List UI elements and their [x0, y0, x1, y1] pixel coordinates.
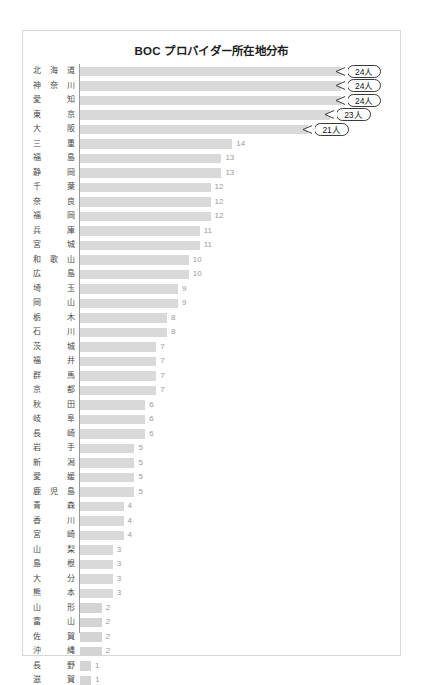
category-label: 福島	[33, 151, 75, 166]
bar-value-label: 13	[225, 166, 234, 181]
bar	[80, 284, 178, 294]
bar	[80, 154, 221, 164]
bar-value-label: 2	[106, 630, 110, 645]
bar-value-label: 4	[128, 514, 132, 529]
bar-value-label: 9	[182, 296, 186, 311]
bar	[80, 96, 341, 106]
bar-fill	[80, 400, 145, 410]
bar-row: 岡山9	[23, 296, 402, 311]
category-label: 大阪	[33, 122, 75, 137]
bar-value-label: 2	[106, 615, 110, 630]
bar-row: 長崎6	[23, 427, 402, 442]
bar-row: 滋賀1	[23, 673, 402, 685]
bar	[80, 632, 102, 642]
bar	[80, 400, 145, 410]
bar-fill	[80, 270, 189, 280]
bar-fill	[80, 110, 330, 120]
bar-value-label: 2	[106, 601, 110, 616]
bar-row: 静岡13	[23, 166, 402, 181]
category-label: 青森	[33, 499, 75, 514]
bar-fill	[80, 531, 124, 541]
callout-label: 21人	[314, 123, 348, 136]
bar	[80, 473, 134, 483]
bar	[80, 168, 221, 178]
value-callout: 24人	[335, 65, 381, 78]
bar	[80, 603, 102, 613]
callout-label: 24人	[347, 65, 381, 78]
category-label: 熊本	[33, 586, 75, 601]
bar-value-label: 5	[138, 441, 142, 456]
category-label: 群馬	[33, 369, 75, 384]
bar-fill	[80, 139, 232, 149]
bar-row: 石川8	[23, 325, 402, 340]
bar-fill	[80, 226, 200, 236]
bar	[80, 487, 134, 497]
callout-label: 24人	[347, 94, 381, 107]
category-label: 秋田	[33, 398, 75, 413]
bar-row: 島根3	[23, 557, 402, 572]
bar	[80, 197, 211, 207]
bar-row: 福島13	[23, 151, 402, 166]
bar-value-label: 2	[106, 644, 110, 659]
category-label: 富山	[33, 615, 75, 630]
bar-fill	[80, 96, 341, 106]
screenshot-root: BOC プロバイダー所在地分布 北海道神奈川愛知東京大阪三重14福島13静岡13…	[0, 0, 425, 685]
bar-fill	[80, 487, 134, 497]
bar-row: 山梨3	[23, 543, 402, 558]
bar	[80, 531, 124, 541]
category-label: 静岡	[33, 166, 75, 181]
bar-fill	[80, 676, 91, 685]
category-label: 大分	[33, 572, 75, 587]
bar-value-label: 11	[204, 224, 212, 239]
category-label: 宮城	[33, 238, 75, 253]
category-label: 北海道	[33, 64, 75, 79]
bar-row: 群馬7	[23, 369, 402, 384]
category-label: 東京	[33, 108, 75, 123]
bar-row: 愛媛5	[23, 470, 402, 485]
bar-fill	[80, 371, 156, 381]
bar-row: 宮崎4	[23, 528, 402, 543]
bar	[80, 647, 102, 657]
category-label: 京都	[33, 383, 75, 398]
callout-pointer-icon	[324, 108, 337, 121]
bar-fill	[80, 429, 145, 439]
bar	[80, 516, 124, 526]
category-label: 香川	[33, 514, 75, 529]
bar-fill	[80, 284, 178, 294]
bar	[80, 270, 189, 280]
bar-value-label: 12	[215, 180, 224, 195]
bar-value-label: 5	[138, 485, 142, 500]
bar-value-label: 10	[193, 253, 202, 268]
callout-label: 24人	[347, 79, 381, 92]
bar	[80, 299, 178, 309]
bar-fill	[80, 589, 113, 599]
bar-row: 京都7	[23, 383, 402, 398]
category-label: 新潟	[33, 456, 75, 471]
bar	[80, 183, 211, 193]
bar-row: 栃木8	[23, 311, 402, 326]
bar-value-label: 12	[215, 209, 224, 224]
bar-fill	[80, 516, 124, 526]
bar-row: 福井7	[23, 354, 402, 369]
bar-value-label: 3	[117, 586, 121, 601]
bar	[80, 342, 156, 352]
category-label: 山梨	[33, 543, 75, 558]
bar	[80, 502, 124, 512]
bar-value-label: 7	[160, 354, 164, 369]
bar-row: 青森4	[23, 499, 402, 514]
category-label: 埼玉	[33, 282, 75, 297]
bar-row: 広島10	[23, 267, 402, 282]
bar-fill	[80, 183, 211, 193]
category-label: 長野	[33, 659, 75, 674]
bar-value-label: 1	[95, 673, 99, 685]
bar-value-label: 5	[138, 456, 142, 471]
bar	[80, 357, 156, 367]
bar	[80, 545, 113, 555]
bar-chart-plot-area: 北海道神奈川愛知東京大阪三重14福島13静岡13千葉12奈良12福岡12兵庫11…	[23, 64, 402, 644]
bar-value-label: 8	[171, 325, 175, 340]
bar-row: 山形2	[23, 601, 402, 616]
bar-row: 鹿児島5	[23, 485, 402, 500]
bar	[80, 429, 145, 439]
bar-row: 佐賀2	[23, 630, 402, 645]
bar-row: 沖縄2	[23, 644, 402, 659]
